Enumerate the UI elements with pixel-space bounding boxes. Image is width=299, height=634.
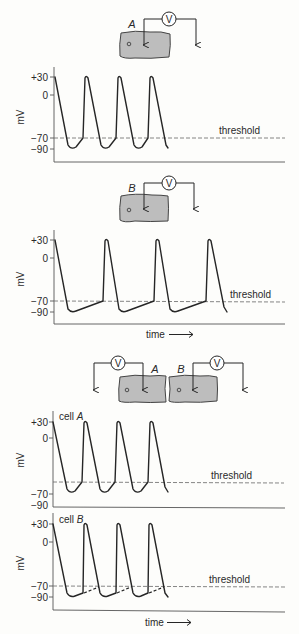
tick-plus30: +30 [31,519,48,530]
voltmeter-label: V [115,358,122,369]
y-axis-label: mV [15,452,26,467]
threshold-label: threshold [209,574,250,585]
threshold-label: threshold [219,125,260,136]
tick-minus70: −70 [31,296,48,307]
graph-cell-b: +30 0 −70 −90 mV threshold time [15,230,285,340]
action-potential-trace [53,422,168,493]
tick-0: 0 [42,433,48,444]
y-ticks [49,524,53,597]
x-axis-label: time [145,617,164,628]
voltmeter-label: V [166,178,173,189]
tick-plus30: +30 [31,417,48,428]
tick-minus90: −90 [31,307,48,318]
cell-label-b: B [177,363,184,375]
tick-0: 0 [42,537,48,548]
voltmeter-ground-wire [94,363,111,390]
figure-root: V A +30 0 −70 −90 mV threshold V B +30 0… [0,0,299,634]
schematic-cell-b: V B [120,176,194,222]
voltmeter-ground-wire [224,363,243,390]
y-axis-label: mV [15,555,26,570]
threshold-label: threshold [211,470,252,481]
schematic-cell-a: V A [120,12,196,58]
x-axis-label: time [146,329,165,340]
cell-label-a: A [150,363,158,375]
tick-minus70: −70 [31,133,48,144]
graph-coupled-cell-a: cell A +30 0 −70 −90 mV threshold [15,411,285,511]
tick-minus90: −90 [31,144,48,155]
time-arrow-icon [169,332,193,338]
action-potential-trace [55,77,168,149]
axes [54,230,285,324]
panel-title-cell-a: cell A [59,411,84,422]
threshold-line [53,482,284,483]
threshold-label: threshold [230,289,271,300]
voltmeter-label: V [166,14,173,25]
y-axis-label: mV [15,271,26,286]
tick-plus30: +30 [31,235,48,246]
tick-minus90: −90 [31,500,48,511]
tick-0: 0 [42,253,48,264]
tick-minus90: −90 [31,592,48,603]
graph-coupled-cell-b: cell B +30 0 −70 −90 mV threshold time [15,513,285,628]
threshold-line [53,586,285,587]
cell-label-b: B [128,182,135,194]
tick-plus30: +30 [31,72,48,83]
time-arrow-icon [167,620,191,626]
figure-svg: V A +30 0 −70 −90 mV threshold V B +30 0… [0,0,299,634]
tick-minus70: −70 [31,489,48,500]
y-axis-label: mV [15,109,26,124]
y-ticks [50,240,54,312]
cell-label-a: A [127,18,135,30]
y-ticks [50,77,54,149]
graph-cell-a: +30 0 −70 −90 mV threshold [15,67,285,162]
schematic-coupled-cells: V V A B [94,356,243,403]
y-ticks [49,422,53,494]
extrapolated-pacemaker-potential [84,587,164,593]
tick-minus70: −70 [31,581,48,592]
voltmeter-label: V [214,358,221,369]
panel-title-cell-b: cell B [59,514,84,525]
tick-0: 0 [42,90,48,101]
